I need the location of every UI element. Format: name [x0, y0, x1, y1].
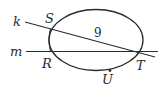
point-r-label: R: [41, 56, 52, 71]
line-m-label: m: [10, 44, 22, 59]
point-u-label: U: [102, 72, 114, 87]
circle: [49, 10, 143, 71]
line-k-label: k: [13, 14, 21, 29]
geometry-diagram: k m S R T U 9: [0, 0, 165, 88]
diagram-svg: k m S R T U 9: [0, 0, 165, 88]
point-t-label: T: [136, 58, 146, 73]
point-s-label: S: [45, 11, 54, 26]
chord-sr: [49, 29, 51, 51]
segment-st-length: 9: [94, 26, 102, 40]
